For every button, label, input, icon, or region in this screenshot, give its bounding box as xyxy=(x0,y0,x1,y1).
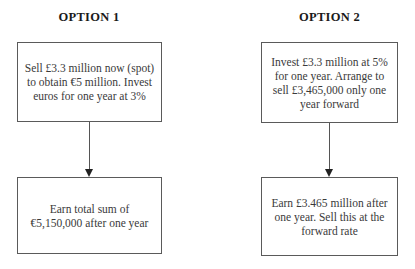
option-2-step-1-text: Invest £3.3 million at 5% for one year. … xyxy=(262,55,397,111)
option-2-step-2-text: Earn £3.465 million after one year. Sell… xyxy=(262,196,397,238)
option-1-step-1-text: Sell £3.3 million now (spot) to obtain €… xyxy=(18,61,161,103)
option-2-heading: OPTION 2 xyxy=(261,10,398,25)
option-1-heading: OPTION 1 xyxy=(17,10,161,25)
option-1-step-2-box: Earn total sum of €5,150,000 after one y… xyxy=(17,177,162,254)
option-1-arrow-head-icon xyxy=(85,169,93,177)
option-1-arrow-line xyxy=(89,122,90,170)
option-1-step-2-text: Earn total sum of €5,150,000 after one y… xyxy=(18,202,161,230)
option-2-arrow-head-icon xyxy=(325,169,333,177)
option-2-step-2-box: Earn £3.465 million after one year. Sell… xyxy=(261,177,398,256)
option-1-step-1-box: Sell £3.3 million now (spot) to obtain €… xyxy=(17,42,162,122)
option-2-arrow-line xyxy=(329,123,330,170)
option-2-step-1-box: Invest £3.3 million at 5% for one year. … xyxy=(261,42,398,123)
